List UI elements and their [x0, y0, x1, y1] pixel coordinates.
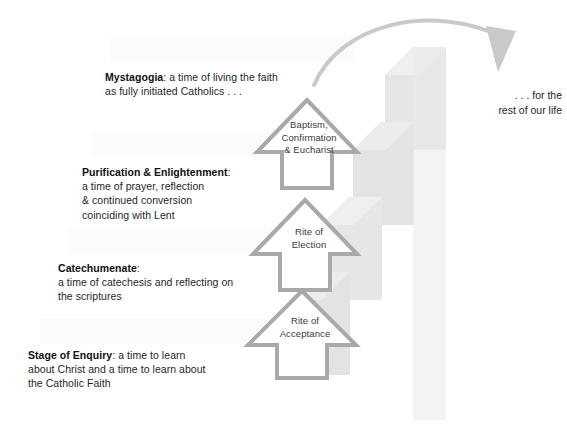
rite-label-acceptance-line2: Acceptance — [245, 328, 365, 341]
rite-label-baptism-line1: Baptism, — [249, 119, 369, 132]
stage-sep-catechumenate: : — [137, 262, 140, 274]
stage-heading-purification: Purification & Enlightenment — [82, 166, 228, 178]
stage-sep-purification: : — [228, 166, 231, 178]
closing-caption-line2: rest of our life — [440, 103, 562, 118]
stage-heading-enquiry: Stage of Enquiry — [28, 349, 112, 361]
stage-line2-catechumenate: a time of catechesis and reflecting on — [58, 276, 233, 288]
stage-heading-catechumenate: Catechumenate — [58, 262, 137, 274]
stage-line2-enquiry: about Christ and a time to learn about — [28, 363, 206, 375]
stage-line1-enquiry: a time to learn — [115, 349, 185, 361]
rite-label-baptism: Baptism, Confirmation & Eucharist — [249, 119, 369, 157]
closing-caption-line1: . . . for the — [440, 88, 562, 103]
stage-line3-enquiry: the Catholic Faith — [28, 377, 111, 389]
rite-label-acceptance: Rite of Acceptance — [245, 315, 365, 340]
stage-line4-purification: coinciding with Lent — [82, 209, 175, 221]
rite-label-acceptance-line1: Rite of — [245, 315, 365, 328]
stage-text-enquiry: Stage of Enquiry: a time to learn about … — [28, 348, 263, 391]
closing-caption: . . . for the rest of our life — [440, 88, 562, 118]
stage-line1-mystagogia: a time of living the faith — [166, 71, 278, 83]
rite-label-baptism-line2: Confirmation — [249, 132, 369, 145]
rite-label-election: Rite of Election — [249, 226, 369, 251]
stage-line3-catechumenate: the scriptures — [58, 290, 122, 302]
stage-line2-purification: a time of prayer, reflection — [82, 180, 204, 192]
stage-text-catechumenate: Catechumenate: a time of catechesis and … — [58, 261, 303, 304]
stage-line2-mystagogia: as fully initiated Catholics . . . — [105, 85, 242, 97]
rite-label-election-line1: Rite of — [249, 226, 369, 239]
stage-line3-purification: & continued conversion — [82, 194, 192, 206]
rite-label-baptism-line3: & Eucharist — [249, 144, 369, 157]
stage-text-purification: Purification & Enlightenment: a time of … — [82, 165, 307, 222]
stage-heading-mystagogia: Mystagogia — [105, 71, 163, 83]
rcia-stages-diagram: Baptism, Confirmation & Eucharist Rite o… — [0, 0, 567, 436]
rite-label-election-line2: Election — [249, 239, 369, 252]
stage-text-mystagogia: Mystagogia: a time of living the faith a… — [105, 70, 340, 98]
